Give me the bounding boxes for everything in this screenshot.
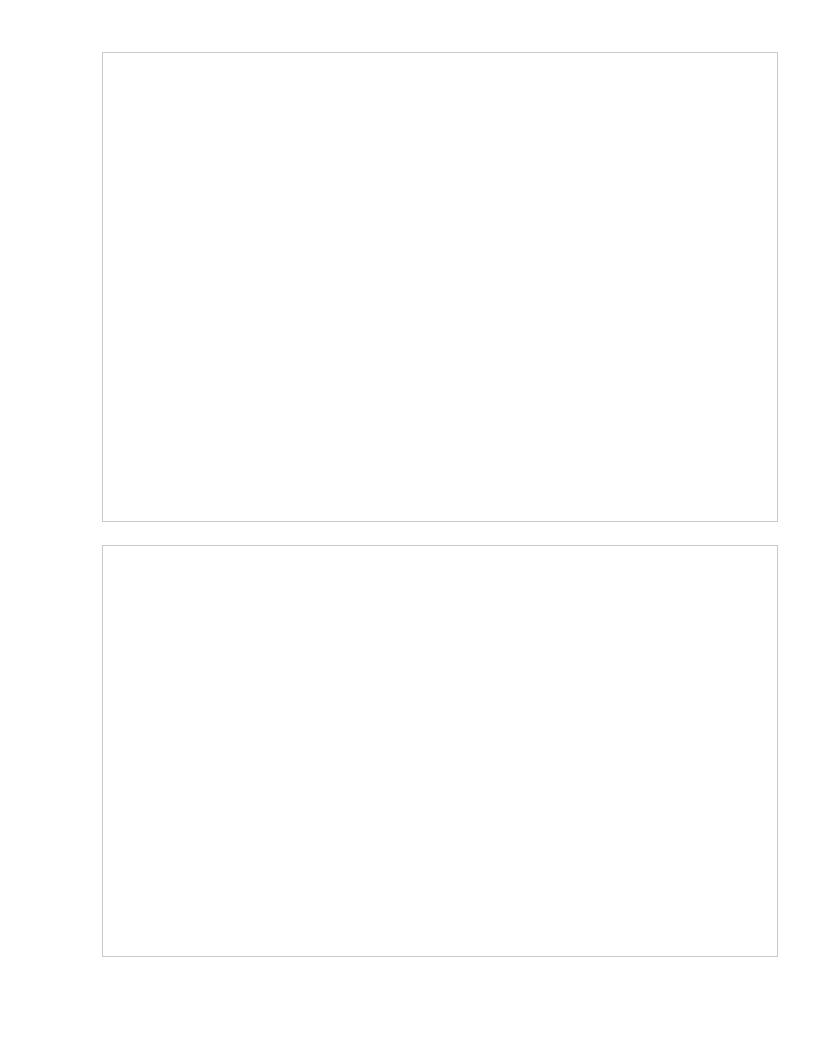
chart-frame-exp6 — [102, 52, 778, 522]
chart-frame-exp22 — [102, 545, 778, 957]
